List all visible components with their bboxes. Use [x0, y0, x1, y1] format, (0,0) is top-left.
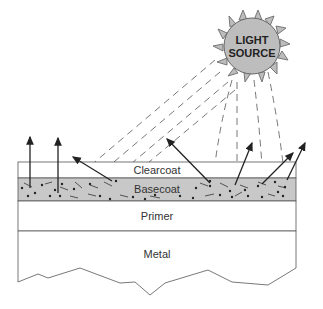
light-source-label-line1: LIGHT: [236, 34, 269, 46]
metal-label: Metal: [144, 248, 171, 260]
sun-icon: [213, 10, 290, 82]
metal-layer: [18, 231, 296, 295]
basecoat-label: Basecoat: [134, 183, 180, 195]
paint-layers-diagram: Clearcoat Basecoat Primer Metal LIGHT SO…: [0, 0, 323, 309]
light-source-label-line2: SOURCE: [228, 47, 275, 59]
primer-label: Primer: [141, 210, 174, 222]
clearcoat-label: Clearcoat: [133, 164, 180, 176]
